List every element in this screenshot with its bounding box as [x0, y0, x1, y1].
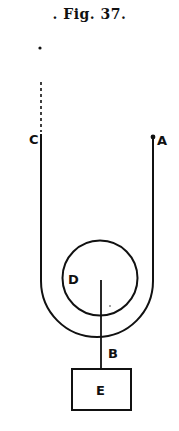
- pulley-diagram: C A D B E: [0, 0, 179, 431]
- label-a: A: [157, 133, 167, 148]
- label-d: D: [68, 272, 79, 287]
- label-e: E: [96, 383, 105, 398]
- label-c: C: [29, 132, 39, 147]
- speck: [109, 305, 111, 307]
- top-dot: [38, 46, 41, 49]
- point-a-dot: [151, 135, 156, 140]
- rope-loop: [41, 134, 153, 337]
- label-b: B: [108, 346, 118, 361]
